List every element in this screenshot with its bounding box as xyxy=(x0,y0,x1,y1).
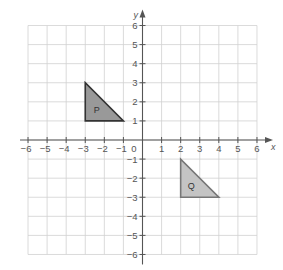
y-tick-label: −2 xyxy=(127,173,138,184)
x-tick-label: −2 xyxy=(97,143,108,154)
y-axis-label: y xyxy=(133,10,139,20)
coordinate-grid-diagram: PQ −6−5−4−3−2−1123456654321−1−2−3−4−5−60… xyxy=(0,0,283,270)
x-tick-label: 6 xyxy=(254,143,259,154)
y-tick-label: 1 xyxy=(132,115,137,126)
x-tick-label: −1 xyxy=(116,143,127,154)
x-tick-label: 2 xyxy=(178,143,183,154)
origin-label: 0 xyxy=(131,143,136,154)
x-tick-label: −3 xyxy=(78,143,89,154)
y-tick-label: −3 xyxy=(127,192,138,203)
y-axis-arrow-icon xyxy=(140,10,146,18)
x-tick-label: −4 xyxy=(59,143,70,154)
x-tick-label: 3 xyxy=(197,143,202,154)
y-tick-label: 3 xyxy=(132,77,137,88)
y-tick-label: 6 xyxy=(132,20,137,31)
coordinate-plane: PQ −6−5−4−3−2−1123456654321−1−2−3−4−5−60… xyxy=(0,0,283,270)
y-tick-label: −6 xyxy=(127,249,138,260)
y-tick-label: 5 xyxy=(132,39,137,50)
y-tick-label: 2 xyxy=(132,96,137,107)
x-tick-label: 4 xyxy=(216,143,221,154)
x-tick-label: 1 xyxy=(159,143,164,154)
x-tick-label: −6 xyxy=(21,143,32,154)
x-axis-label: x xyxy=(270,142,276,152)
axes-layer xyxy=(20,10,273,265)
x-tick-label: 5 xyxy=(235,143,240,154)
shape-label-q: Q xyxy=(188,181,195,191)
x-tick-label: −5 xyxy=(40,143,51,154)
y-tick-label: −1 xyxy=(127,154,138,165)
y-tick-label: 4 xyxy=(132,58,137,69)
y-tick-label: −5 xyxy=(127,230,138,241)
shape-label-p: P xyxy=(94,105,100,115)
y-tick-label: −4 xyxy=(127,211,138,222)
